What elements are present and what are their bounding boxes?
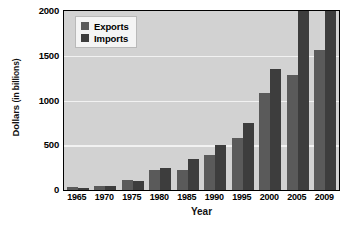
y-axis-tick-label: 0 — [54, 184, 59, 195]
x-axis-tick-label: 1975 — [122, 192, 141, 202]
x-axis-tick-label: 1980 — [150, 192, 169, 202]
y-axis-tick-label: 2000 — [39, 5, 59, 16]
bar-imports-2000 — [270, 69, 281, 190]
bar-imports-1980 — [160, 168, 171, 190]
bar-imports-1975 — [133, 181, 144, 190]
bar-group — [232, 11, 254, 190]
y-axis-tick-label: 1500 — [39, 49, 59, 60]
y-axis-title-sub: (in billions) — [11, 58, 21, 102]
y-axis-title-container: Dollars (in billions) — [0, 0, 22, 200]
bar-exports-1980 — [149, 170, 160, 190]
legend-label-imports: Imports — [94, 33, 128, 44]
y-axis-title-main: Dollars — [10, 105, 21, 137]
y-axis-title: Dollars (in billions) — [10, 28, 21, 168]
exports-swatch-icon — [81, 22, 89, 30]
bar-exports-1975 — [122, 180, 133, 190]
bar-imports-1985 — [188, 159, 199, 190]
bar-chart-figure: Dollars (in billions) 0500100015002000 E… — [0, 0, 352, 239]
x-axis-tick-label: 2000 — [260, 192, 279, 202]
y-axis-tick-labels: 0500100015002000 — [22, 0, 62, 200]
x-axis-tick-label: 1965 — [67, 192, 86, 202]
bar-exports-2009 — [314, 50, 325, 190]
bar-exports-1990 — [204, 155, 215, 190]
y-axis-tick-label: 500 — [44, 139, 59, 150]
bar-group — [149, 11, 171, 190]
bar-imports-1970 — [105, 186, 116, 190]
bar-exports-1985 — [177, 170, 188, 190]
bar-group — [259, 11, 281, 190]
bar-group — [314, 11, 336, 190]
x-axis-tick-labels: 1965197019751980198519901995200020052009 — [63, 192, 340, 206]
legend-item-exports: Exports — [81, 20, 129, 32]
imports-swatch-icon — [81, 34, 89, 42]
x-axis-tick-label: 2005 — [287, 192, 306, 202]
bar-imports-1965 — [78, 188, 89, 190]
x-axis-tick-label: 2009 — [315, 192, 334, 202]
bar-exports-2005 — [287, 75, 298, 190]
x-axis-tick-label: 1990 — [205, 192, 224, 202]
x-axis-tick-label: 1970 — [95, 192, 114, 202]
bar-exports-2000 — [259, 93, 270, 190]
bar-group — [287, 11, 309, 190]
bar-imports-1995 — [243, 123, 254, 190]
plot-area: Exports Imports — [63, 10, 340, 191]
bar-imports-2005 — [298, 11, 309, 190]
bar-imports-2009 — [325, 11, 336, 190]
bar-exports-1965 — [67, 187, 78, 190]
bar-exports-1970 — [94, 186, 105, 190]
x-axis-tick-label: 1995 — [232, 192, 251, 202]
y-axis-tick-label: 1000 — [39, 94, 59, 105]
x-axis-tick-label: 1985 — [177, 192, 196, 202]
bar-group — [177, 11, 199, 190]
bar-imports-1990 — [215, 145, 226, 190]
legend-item-imports: Imports — [81, 32, 129, 44]
x-axis-title: Year — [63, 206, 340, 217]
legend-label-exports: Exports — [94, 21, 129, 32]
bar-group — [204, 11, 226, 190]
bar-exports-1995 — [232, 138, 243, 190]
chart-legend: Exports Imports — [75, 16, 137, 48]
